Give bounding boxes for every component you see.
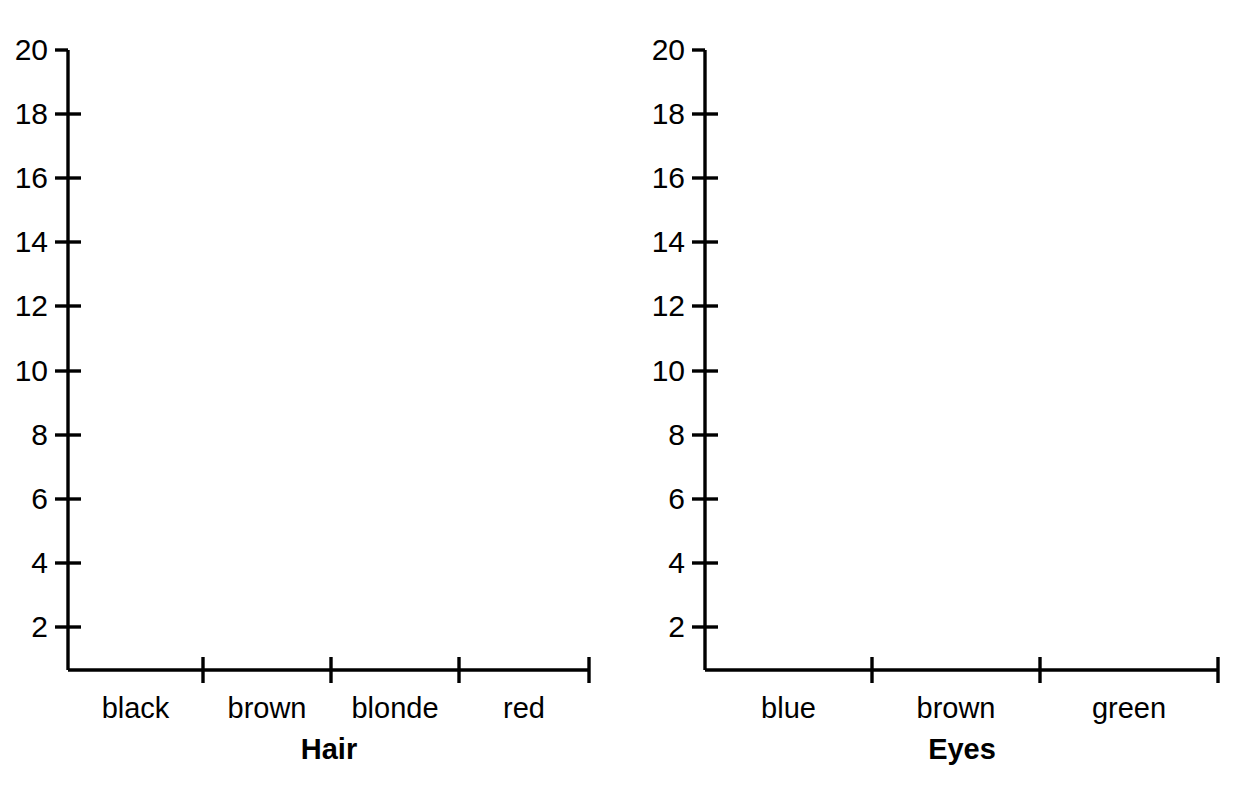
eyes-ytick-label-2: 2 — [639, 612, 685, 642]
hair-xtick-label-blonde: blonde — [331, 693, 459, 723]
hair-ytick-label-4: 4 — [2, 548, 48, 578]
eyes-ytick-label-18: 18 — [639, 99, 685, 129]
eyes-ytick-label-12: 12 — [639, 291, 685, 321]
hair-ytick-label-6: 6 — [2, 484, 48, 514]
chart-canvas: 20 18 16 14 12 10 8 6 4 2 black brown bl… — [0, 0, 1244, 810]
eyes-xtick-label-blue: blue — [705, 693, 872, 723]
hair-xtick-label-red: red — [459, 693, 589, 723]
eyes-ytick-label-8: 8 — [639, 420, 685, 450]
eyes-xtick-label-green: green — [1040, 693, 1218, 723]
eyes-ytick-label-16: 16 — [639, 163, 685, 193]
hair-xtick-label-brown: brown — [203, 693, 331, 723]
hair-ytick-label-12: 12 — [2, 291, 48, 321]
eyes-ytick-label-14: 14 — [639, 227, 685, 257]
hair-ytick-label-20: 20 — [2, 35, 48, 65]
hair-xtick-label-black: black — [68, 693, 203, 723]
hair-ytick-label-14: 14 — [2, 227, 48, 257]
hair-axes-svg — [0, 0, 622, 810]
hair-ytick-label-2: 2 — [2, 612, 48, 642]
eyes-ytick-label-10: 10 — [639, 356, 685, 386]
hair-ytick-label-8: 8 — [2, 420, 48, 450]
chart-hair: 20 18 16 14 12 10 8 6 4 2 black brown bl… — [0, 0, 622, 810]
eyes-axes-svg — [622, 0, 1244, 810]
eyes-xtick-label-brown: brown — [872, 693, 1040, 723]
hair-ytick-label-18: 18 — [2, 99, 48, 129]
chart-eyes: 20 18 16 14 12 10 8 6 4 2 blue brown gre… — [622, 0, 1244, 810]
eyes-ytick-label-20: 20 — [639, 35, 685, 65]
hair-ytick-label-16: 16 — [2, 163, 48, 193]
hair-axis-title: Hair — [68, 733, 590, 765]
eyes-axis-title: Eyes — [705, 733, 1219, 765]
hair-ytick-label-10: 10 — [2, 356, 48, 386]
eyes-ytick-label-6: 6 — [639, 484, 685, 514]
eyes-ytick-label-4: 4 — [639, 548, 685, 578]
